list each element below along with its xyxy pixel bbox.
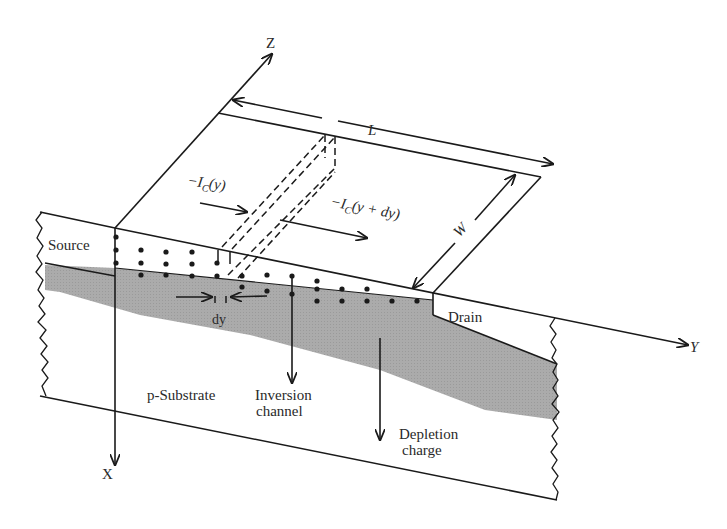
z-axis-label: Z — [266, 35, 275, 51]
width-dimension-arrow-down — [413, 243, 455, 288]
width-label: W — [450, 219, 471, 240]
p-substrate-label: p-Substrate — [147, 387, 216, 403]
inversion-channel-label-1: Inversion — [255, 387, 312, 403]
current-ic-ydy-label: −IC(y + dy) — [329, 193, 402, 225]
mosfet-channel-diagram: Z Y X L W dy −IC(y) −IC(y + dy) Source D… — [0, 0, 727, 529]
width-dimension-arrow-up — [475, 175, 515, 220]
depletion-charge-label-2: charge — [402, 442, 442, 458]
y-axis-label: Y — [690, 339, 700, 355]
ic-y-arrow — [200, 203, 247, 212]
x-axis-label: X — [102, 466, 113, 482]
ic-ydy-arrow — [280, 220, 367, 238]
left-break-zigzag — [36, 212, 48, 396]
depletion-charge-label-1: Depletion — [399, 426, 459, 442]
length-label: L — [367, 122, 376, 138]
inversion-channel-label-2: channel — [256, 403, 303, 419]
length-dimension-arrow-back — [233, 100, 322, 118]
dy-label: dy — [212, 312, 226, 327]
z-axis — [115, 54, 272, 228]
drain-label: Drain — [448, 309, 483, 325]
source-label: Source — [48, 237, 90, 253]
dy-arrow-right — [231, 296, 267, 297]
current-ic-y-label: −IC(y) — [186, 172, 227, 196]
